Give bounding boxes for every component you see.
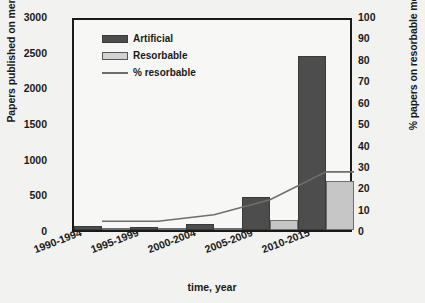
- legend-swatch-artificial-icon: [102, 35, 128, 43]
- y-axis-left-tick: 500: [0, 189, 47, 201]
- y-axis-right-tick: 90: [358, 32, 398, 44]
- y-axis-right-tick: 40: [358, 140, 398, 152]
- y-axis-right-tick: 80: [358, 54, 398, 66]
- y-axis-right-title: % papers on resorbable membranes in RM: [405, 0, 421, 133]
- chart-figure: Papers published on membranes in RM % pa…: [0, 0, 425, 303]
- x-axis-title: time, year: [72, 281, 352, 293]
- y-axis-left-tick: 2000: [0, 82, 47, 94]
- y-axis-right-tick: 0: [358, 225, 398, 237]
- legend-swatch-resorbable-icon: [102, 52, 128, 60]
- y-axis-right-tick: 50: [358, 118, 398, 130]
- legend-item-artificial: Artificial: [102, 30, 196, 47]
- chart-legend: Artificial Resorbable % resorbable: [102, 30, 196, 81]
- y-axis-right-tick: 100: [358, 11, 398, 23]
- legend-item-resorbable: Resorbable: [102, 47, 196, 64]
- y-axis-left-tick: 2500: [0, 47, 47, 59]
- legend-item-percent-resorbable: % resorbable: [102, 64, 196, 81]
- y-axis-right-tick: 10: [358, 204, 398, 216]
- y-axis-right-tick: 70: [358, 75, 398, 87]
- legend-label-artificial: Artificial: [133, 33, 173, 44]
- percent-resorbable-polyline: [102, 172, 354, 221]
- y-axis-left-tick: 3000: [0, 11, 47, 23]
- y-axis-left-tick: 0: [0, 225, 47, 237]
- y-axis-right-tick: 60: [358, 97, 398, 109]
- y-axis-right-tick: 20: [358, 182, 398, 194]
- legend-label-percent-resorbable: % resorbable: [133, 67, 196, 78]
- y-axis-left-tick: 1500: [0, 118, 47, 130]
- y-axis-right-tick: 30: [358, 161, 398, 173]
- plot-area: Artificial Resorbable % resorbable: [72, 18, 352, 232]
- legend-swatch-line-icon: [102, 69, 128, 77]
- legend-label-resorbable: Resorbable: [133, 50, 187, 61]
- y-axis-left-tick: 1000: [0, 154, 47, 166]
